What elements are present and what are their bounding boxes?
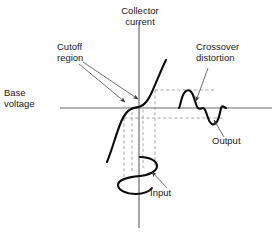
- leader-lines-group: [79, 62, 224, 188]
- leader-cutoff-region-right: [83, 62, 138, 99]
- leader-input: [152, 172, 167, 188]
- label-output: Output: [212, 135, 258, 146]
- leader-crossover-distortion: [196, 68, 208, 101]
- crossover-distortion-diagram: [0, 0, 279, 238]
- output-waveform: [179, 90, 226, 124]
- figure-canvas: Collector current Cutoff region Base vol…: [0, 0, 279, 238]
- label-cutoff-region: Cutoff region: [57, 41, 115, 63]
- label-base-voltage: Base voltage: [4, 87, 64, 109]
- leader-cutoff-region-left: [79, 64, 125, 102]
- label-crossover-distortion: Crossover distortion: [196, 41, 274, 63]
- label-collector-current: Collector current: [92, 5, 188, 27]
- label-input: Input: [150, 187, 190, 198]
- transfer-characteristic-curve: [107, 60, 166, 162]
